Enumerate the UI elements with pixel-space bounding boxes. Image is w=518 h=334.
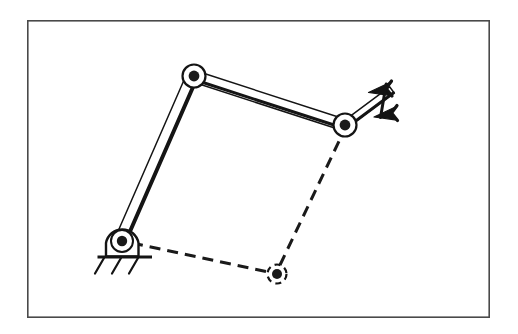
ground-pivot-dot <box>117 236 127 246</box>
joint-right-pivot[interactable] <box>334 114 357 137</box>
figure-root: Four-bar linkage mechanism diagram techn… <box>0 0 518 334</box>
right-pivot-dot <box>340 120 351 131</box>
upper-left-pivot-dot <box>189 71 200 82</box>
mechanism-diagram <box>0 0 518 334</box>
lower-right-pivot-dot <box>272 269 282 279</box>
joint-ground-pivot[interactable] <box>111 230 133 252</box>
joint-upper-left-pivot[interactable] <box>183 65 206 88</box>
figure-border <box>28 21 489 317</box>
